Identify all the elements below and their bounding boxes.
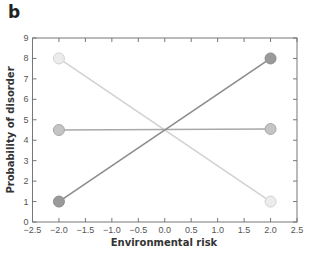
- x-tick-label: −1.5: [77, 225, 95, 235]
- data-point-medium: [265, 123, 276, 134]
- y-tick-label: 0: [23, 217, 28, 227]
- x-tick-label: 2.5: [291, 225, 304, 235]
- x-tick-label: 0.0: [158, 225, 171, 235]
- x-tick-label: −1.0: [103, 225, 121, 235]
- data-point-light: [53, 53, 64, 64]
- y-tick-label: 3: [23, 156, 28, 166]
- x-tick-label: 2.0: [264, 225, 277, 235]
- data-point-light: [265, 196, 276, 207]
- x-axis-ticks: −2.5−2.0−1.5−1.0−0.50.00.51.01.52.02.5: [24, 38, 304, 235]
- y-tick-label: 9: [23, 33, 28, 43]
- y-tick-label: 7: [23, 74, 28, 84]
- series-lines: [59, 58, 271, 201]
- data-point-dark: [265, 53, 276, 64]
- y-axis-title: Probability of disorder: [5, 66, 16, 193]
- x-axis-title: Environmental risk: [111, 237, 218, 248]
- data-point-medium: [53, 125, 64, 136]
- data-point-dark: [53, 196, 64, 207]
- y-tick-label: 5: [23, 115, 28, 125]
- x-tick-label: −2.0: [50, 225, 68, 235]
- x-tick-label: 1.5: [238, 225, 251, 235]
- x-tick-label: 0.5: [185, 225, 198, 235]
- y-tick-label: 1: [23, 197, 28, 207]
- x-tick-label: 1.0: [211, 225, 224, 235]
- y-tick-label: 8: [23, 53, 28, 63]
- x-tick-label: −0.5: [129, 225, 147, 235]
- y-tick-label: 2: [23, 176, 28, 186]
- line-chart: −2.5−2.0−1.5−1.0−0.50.00.51.01.52.02.5 0…: [0, 0, 313, 260]
- y-tick-label: 4: [23, 135, 28, 145]
- y-tick-label: 6: [23, 94, 28, 104]
